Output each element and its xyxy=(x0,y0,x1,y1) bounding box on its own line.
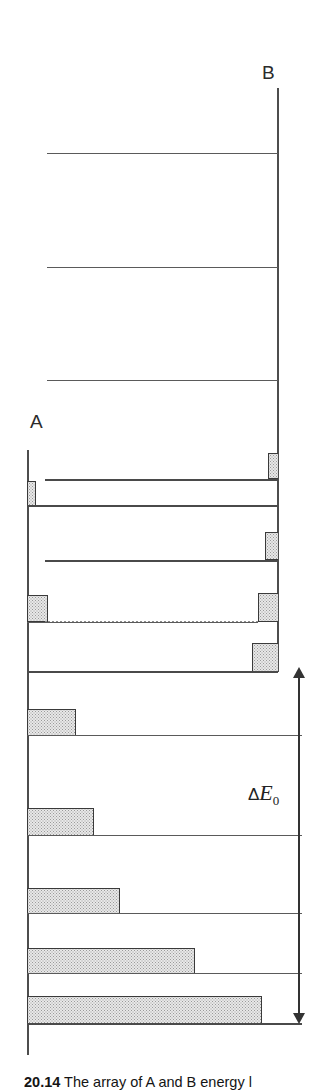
delta-e-symbol: E xyxy=(259,780,272,805)
axis-label-b: B xyxy=(262,63,275,82)
energy-level-b-1 xyxy=(47,153,278,154)
axis-label-a: A xyxy=(30,412,43,431)
figure-caption-text: The array of A and B energy l xyxy=(64,1074,252,1090)
population-bar-a-4 xyxy=(27,808,94,836)
energy-level-a-4 xyxy=(27,835,302,836)
delta-e-subscript: 0 xyxy=(273,793,280,808)
energy-level-a-1 xyxy=(27,505,278,507)
population-bar-a-2 xyxy=(27,595,48,622)
energy-level-a-3 xyxy=(27,735,302,736)
population-bar-a-1 xyxy=(27,481,36,506)
energy-level-b-7 xyxy=(27,671,278,673)
energy-level-b-5 xyxy=(45,560,278,562)
energy-level-b-2 xyxy=(47,267,278,268)
population-bar-a-6 xyxy=(27,948,195,974)
energy-level-a-2 xyxy=(27,622,258,623)
population-bar-a-3 xyxy=(27,709,76,736)
delta-arrow-head-bottom xyxy=(293,1013,305,1024)
delta-e-zero-label: ΔE0 xyxy=(248,782,279,807)
population-bar-b-6 xyxy=(258,593,278,622)
energy-level-a-5 xyxy=(27,913,302,914)
population-bar-b-7 xyxy=(252,643,278,672)
delta-arrow-shaft xyxy=(298,672,300,1020)
population-bar-a-5 xyxy=(27,888,120,914)
figure-number: 20.14 xyxy=(24,1074,60,1090)
energy-level-a-6 xyxy=(27,973,302,974)
figure-caption: 20.14 The array of A and B energy l xyxy=(24,1073,330,1090)
population-bar-b-4 xyxy=(268,453,278,479)
energy-level-b-3 xyxy=(47,380,278,381)
population-bar-b-5 xyxy=(265,532,278,560)
energy-level-b-4 xyxy=(45,479,278,481)
population-bar-a-7 xyxy=(27,996,262,1024)
delta-triangle-glyph: Δ xyxy=(248,785,259,804)
energy-level-figure: B A ΔE0 20.14 The array xyxy=(0,0,336,1090)
energy-level-a-7 xyxy=(27,1023,302,1025)
